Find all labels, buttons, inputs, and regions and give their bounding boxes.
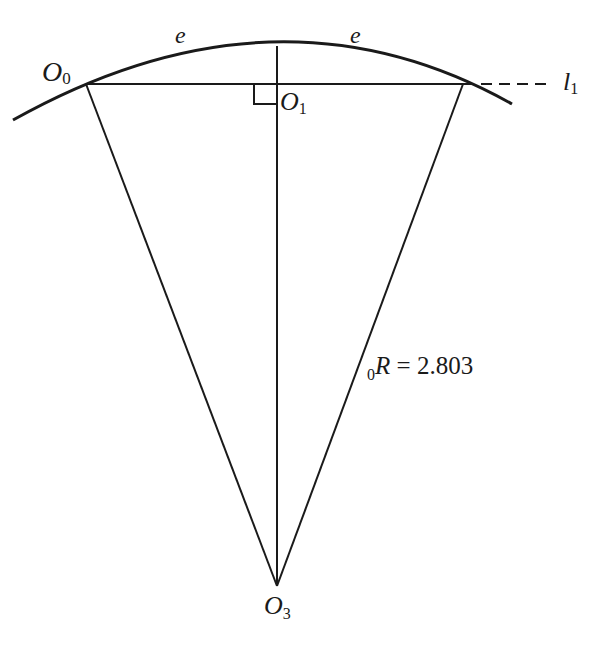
- point-o1-sub: 1: [299, 100, 307, 117]
- radius-value: = 2.803: [390, 352, 473, 379]
- radius-main: R: [374, 352, 390, 379]
- arc-label-left: e: [175, 22, 186, 48]
- radius-right: [277, 84, 463, 586]
- point-o1-main: O: [280, 87, 299, 116]
- point-o0-sub: 0: [62, 69, 71, 88]
- point-o3-label: O3: [264, 591, 291, 622]
- radius-left: [86, 84, 277, 586]
- point-o3-main: O: [264, 591, 283, 620]
- radius-pre-sub: 0: [367, 366, 375, 383]
- arc-label-right: e: [350, 22, 361, 48]
- line-l1-sub: 1: [570, 80, 578, 97]
- point-o0-main: O: [42, 56, 62, 87]
- point-o3-sub: 3: [283, 605, 291, 622]
- radius-label: 0R = 2.803: [367, 352, 473, 383]
- circle-arc: [13, 42, 512, 120]
- point-o0-label: O0: [42, 56, 71, 88]
- point-o1-label: O1: [280, 87, 307, 117]
- right-angle-marker: [254, 84, 277, 104]
- line-l1-label: l1: [563, 67, 578, 97]
- geometry-diagram: e e O0 O1 l1 O3 0R = 2.803: [0, 0, 612, 663]
- line-l1-main: l: [563, 67, 570, 96]
